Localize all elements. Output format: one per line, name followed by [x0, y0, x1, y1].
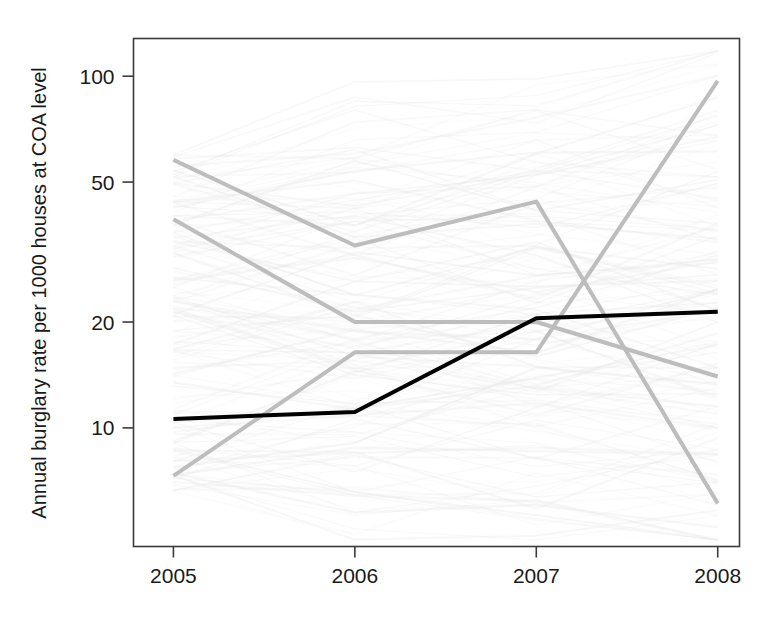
y-axis-title: Annual burglary rate per 1000 houses at … — [28, 67, 50, 518]
x-tick-label: 2006 — [331, 564, 378, 587]
y-tick-label: 50 — [91, 171, 114, 194]
chart-svg: 102050100 2005200620072008 Annual burgla… — [0, 0, 770, 620]
burglary-rate-spaghetti-chart: 102050100 2005200620072008 Annual burgla… — [0, 0, 770, 620]
y-tick-label: 20 — [91, 311, 114, 334]
x-tick-label: 2005 — [150, 564, 197, 587]
y-tick-label: 10 — [91, 416, 114, 439]
x-tick-label: 2007 — [513, 564, 560, 587]
y-tick-label: 100 — [79, 65, 114, 88]
x-tick-label: 2008 — [694, 564, 741, 587]
